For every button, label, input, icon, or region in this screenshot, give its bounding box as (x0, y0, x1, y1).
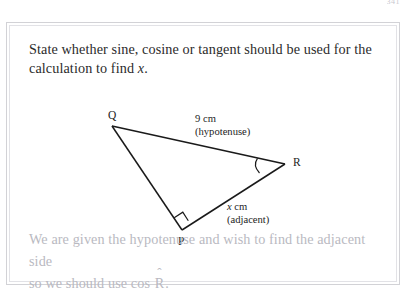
adjacent-length-label: x cm (227, 201, 247, 214)
answer-line-1: We are given the hypotenuse and wish to … (29, 231, 365, 269)
angle-symbol-r-hat: ˆR (154, 272, 166, 294)
page-number: 341 (387, 0, 401, 4)
worked-example-box: State whether sine, cosine or tangent sh… (6, 22, 400, 285)
adjacent-role-label: (adjacent) (227, 214, 269, 227)
right-angle-marker-at-p (174, 212, 188, 221)
triangle-side-qp-opposite (112, 126, 182, 230)
question-text: State whether sine, cosine or tangent sh… (29, 40, 377, 78)
vertex-label-q: Q (108, 109, 116, 122)
angle-arc-at-r (255, 158, 259, 173)
hypotenuse-length-label: 9 cm (195, 113, 216, 126)
question-line-2-prefix: calculation to find (29, 60, 138, 76)
question-line-2-suffix: . (144, 60, 148, 76)
hypotenuse-role-label: (hypotenuse) (195, 126, 250, 139)
circumflex-accent: ˆ (157, 266, 161, 279)
answer-line-2-prefix: so we should use cos (29, 275, 154, 291)
triangle-diagram: Q R P 9 cm (hypotenuse) x cm (adjacent) (7, 85, 401, 235)
vertex-label-r: R (293, 156, 301, 169)
adjacent-length-unit: cm (232, 201, 248, 212)
worked-example-content: State whether sine, cosine or tangent sh… (7, 23, 399, 284)
question-line-1: State whether sine, cosine or tangent sh… (29, 41, 372, 57)
answer-text: We are given the hypotenuse and wish to … (29, 228, 381, 294)
triangle-svg (7, 85, 401, 235)
answer-line-2-suffix: . (165, 275, 169, 291)
